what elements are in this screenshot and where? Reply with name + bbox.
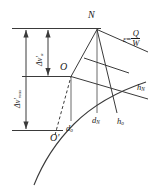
enthalpy-line-h-o xyxy=(97,30,117,114)
point-label-n: N xyxy=(88,10,95,20)
dimension-arrow-delta-v-max xyxy=(23,30,28,129)
axis-label-h-n: hN xyxy=(137,83,145,92)
fraction-denominator-w: W xyxy=(131,39,140,48)
d-o-subscript: o xyxy=(70,127,73,133)
dimension-label-delta-v-max: Δv'max xyxy=(14,90,23,108)
delta-v-a-symbol: Δv' xyxy=(35,56,44,66)
delta-v-max-subscript: max xyxy=(17,90,22,98)
fraction-q-over-w: QW xyxy=(131,29,140,48)
formula-epsilon-equals-q-over-w: ε=QW xyxy=(123,29,140,48)
dimension-label-delta-v-a: Δv'a xyxy=(36,54,45,66)
delta-v-a-subscript: a xyxy=(39,54,44,56)
delta-v-max-symbol: Δv' xyxy=(13,98,22,108)
point-label-o-prime: O' xyxy=(50,133,59,143)
process-line-o-to-n xyxy=(71,30,97,77)
h-o-subscript: o xyxy=(121,120,124,126)
h-n-subscript: N xyxy=(141,86,145,92)
axis-label-d-o: do xyxy=(66,124,73,133)
dimension-arrow-delta-v-a xyxy=(45,30,50,76)
point-label-o: O xyxy=(60,62,67,72)
axis-label-d-n: dN xyxy=(92,116,100,125)
d-n-subscript: N xyxy=(96,119,100,125)
axis-label-h-o: ho xyxy=(117,117,124,126)
diagram-canvas: N O O' Δv'max Δv'a do dN ho hN ε=QW xyxy=(0,0,162,190)
